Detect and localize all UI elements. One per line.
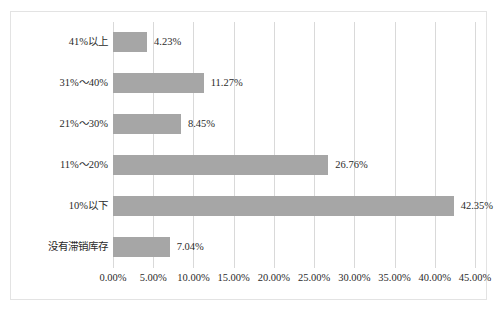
category-label: 10%以下 — [8, 197, 108, 215]
x-tick-label: 30.00% — [338, 270, 370, 286]
category-label: 没有滞销库存 — [8, 238, 108, 256]
bar[interactable] — [113, 114, 181, 134]
bar[interactable] — [113, 73, 204, 93]
x-tick-label: 35.00% — [378, 270, 410, 286]
x-tick-label: 10.00% — [177, 270, 209, 286]
bar[interactable] — [113, 155, 328, 175]
bar-value-label: 11.27% — [211, 74, 243, 92]
bar[interactable] — [113, 237, 170, 257]
category-label: 31%～40% — [8, 74, 108, 92]
bar-row: 8.45% — [113, 104, 475, 145]
bar-value-label: 26.76% — [335, 156, 367, 174]
category-label-slot: 没有滞销库存 — [8, 227, 108, 268]
x-tick-label: 45.00% — [459, 270, 491, 286]
bar-row: 26.76% — [113, 145, 475, 186]
category-label-slot: 31%～40% — [8, 63, 108, 104]
category-label-slot: 41%以上 — [8, 22, 108, 63]
category-label: 21%～30% — [8, 115, 108, 133]
category-label-slot: 11%～20% — [8, 145, 108, 186]
bar-value-label: 8.45% — [188, 115, 215, 133]
bar-row: 11.27% — [113, 63, 475, 104]
x-axis: 0.00%5.00%10.00%15.00%20.00%25.00%30.00%… — [113, 270, 475, 290]
gridline-45.00% — [475, 22, 476, 268]
bar[interactable] — [113, 196, 454, 216]
x-tick-label: 5.00% — [140, 270, 167, 286]
x-tick-label: 15.00% — [217, 270, 249, 286]
x-tick-label: 25.00% — [298, 270, 330, 286]
bar-row: 7.04% — [113, 227, 475, 268]
bar-value-label: 4.23% — [154, 33, 181, 51]
category-label-slot: 21%～30% — [8, 104, 108, 145]
category-label-slot: 10%以下 — [8, 186, 108, 227]
bar[interactable] — [113, 32, 147, 52]
x-tick-label: 40.00% — [419, 270, 451, 286]
category-label: 41%以上 — [8, 33, 108, 51]
bar-row: 42.35% — [113, 186, 475, 227]
bar-chart: 41%以上31%～40%21%～30%11%～20%10%以下没有滞销库存 4.… — [0, 0, 495, 312]
plot-area: 4.23%11.27%8.45%26.76%42.35%7.04% — [113, 22, 475, 268]
bar-value-label: 7.04% — [177, 238, 204, 256]
category-label: 11%～20% — [8, 156, 108, 174]
x-tick-label: 0.00% — [99, 270, 126, 286]
bar-row: 4.23% — [113, 22, 475, 63]
x-tick-label: 20.00% — [258, 270, 290, 286]
category-axis: 41%以上31%～40%21%～30%11%～20%10%以下没有滞销库存 — [8, 22, 108, 268]
bar-value-label: 42.35% — [461, 197, 493, 215]
